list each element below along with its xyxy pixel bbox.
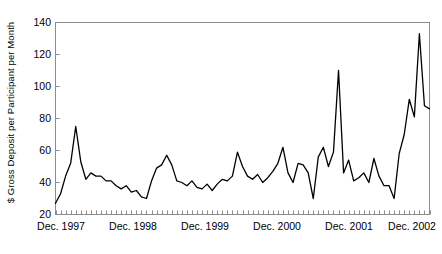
x-tick-label-1999: Dec. 1999 <box>181 221 229 232</box>
x-tick-label-1998: Dec. 1998 <box>109 221 157 232</box>
y-tick-label-40: 40 <box>25 177 51 188</box>
x-tick-label-2000: Dec. 2000 <box>253 221 301 232</box>
x-tick-label-2001: Dec. 2001 <box>325 221 373 232</box>
y-tick-label-20: 20 <box>25 209 51 220</box>
x-tick-label-2002: Dec. 2002 <box>388 221 436 232</box>
y-tick-label-120: 120 <box>25 49 51 60</box>
y-axis-label: $ Gross Deposit per Participant per Mont… <box>6 22 17 204</box>
y-axis-tick-labels: 140 120 100 80 60 40 20 <box>20 0 51 254</box>
y-axis-label-container: $ Gross Deposit per Participant per Mont… <box>0 0 22 225</box>
plot-frame <box>56 23 430 215</box>
y-tick-label-140: 140 <box>25 17 51 28</box>
x-tick-label-1997: Dec. 1997 <box>37 221 85 232</box>
plot-area <box>0 0 442 254</box>
y-tick-label-80: 80 <box>25 113 51 124</box>
y-tick-label-60: 60 <box>25 145 51 156</box>
y-tick-label-100: 100 <box>25 81 51 92</box>
chart-figure: $ Gross Deposit per Participant per Mont… <box>0 0 442 254</box>
